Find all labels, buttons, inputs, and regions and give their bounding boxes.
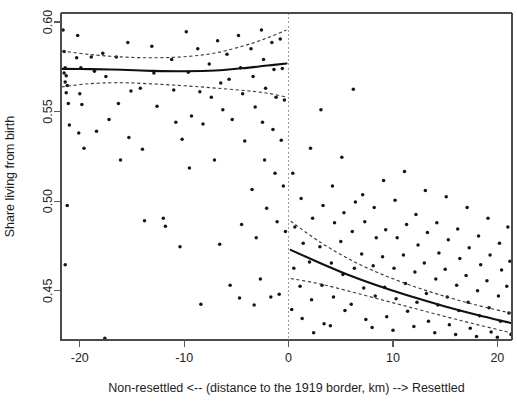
data-point: [103, 336, 107, 340]
data-point: [275, 220, 279, 224]
data-point: [162, 216, 166, 220]
data-point: [298, 285, 302, 289]
data-point: [447, 238, 451, 242]
data-point: [443, 267, 447, 271]
data-point: [299, 197, 303, 201]
data-point: [364, 318, 368, 322]
data-point: [259, 277, 263, 281]
data-point: [373, 294, 377, 298]
data-point: [213, 158, 217, 162]
data-point: [312, 331, 316, 335]
data-point: [230, 118, 234, 122]
data-point: [221, 108, 225, 112]
data-point: [496, 336, 500, 340]
data-point: [210, 95, 214, 99]
data-point: [489, 330, 493, 334]
x-axis-title: Non-resettled <-- (distance to the 1919 …: [108, 381, 464, 395]
data-point: [412, 325, 416, 329]
data-point: [251, 75, 255, 79]
data-point: [362, 286, 366, 290]
data-point: [76, 34, 80, 38]
data-point: [395, 236, 399, 240]
data-point: [291, 172, 295, 176]
data-point: [426, 231, 430, 235]
data-point: [477, 234, 481, 238]
data-point: [273, 172, 277, 176]
data-point: [270, 41, 274, 45]
data-point: [391, 328, 395, 332]
data-point: [435, 221, 439, 225]
data-point: [272, 68, 276, 72]
data-point: [371, 264, 375, 268]
data-point: [360, 252, 364, 256]
data-point: [119, 158, 123, 162]
fitted-curves-group: [62, 30, 511, 333]
data-point: [393, 198, 397, 202]
data-point: [340, 155, 344, 159]
y-tick-label: 0.45: [41, 279, 55, 303]
data-point: [448, 323, 452, 327]
data-point: [405, 223, 409, 227]
data-point: [508, 259, 512, 263]
data-point: [190, 114, 194, 118]
data-point: [384, 228, 388, 232]
data-point: [250, 188, 254, 192]
data-points-group: [61, 28, 512, 340]
data-point: [274, 95, 278, 99]
data-point: [180, 138, 184, 142]
data-point: [342, 211, 346, 215]
data-point: [372, 206, 376, 210]
data-point: [292, 267, 296, 271]
data-point: [351, 230, 355, 234]
data-point: [188, 166, 192, 170]
data-point: [331, 184, 335, 188]
data-point: [63, 263, 67, 267]
data-point: [330, 261, 334, 265]
data-point: [406, 310, 410, 314]
fit-left: [62, 64, 286, 72]
data-point: [218, 242, 222, 246]
data-point: [375, 236, 379, 240]
data-point: [290, 308, 294, 312]
data-point: [488, 253, 492, 257]
data-point: [238, 296, 242, 300]
data-point: [126, 41, 130, 45]
data-point: [311, 216, 315, 220]
data-point: [178, 245, 182, 249]
data-point: [433, 331, 437, 335]
data-point: [455, 284, 459, 288]
figure-panel: -20-10010200.450.500.550.60Share living …: [0, 0, 517, 406]
data-point: [208, 62, 212, 66]
data-point: [354, 200, 358, 204]
scatter-plot: -20-10010200.450.500.550.60Share living …: [0, 0, 517, 406]
data-point: [101, 52, 105, 56]
data-point: [90, 55, 94, 59]
data-point: [150, 44, 154, 48]
data-point: [127, 136, 131, 140]
data-point: [143, 219, 147, 223]
data-point: [78, 92, 82, 96]
x-tick-label: 0: [285, 351, 292, 365]
data-point: [241, 92, 245, 96]
data-point: [333, 221, 337, 225]
data-point: [506, 225, 510, 229]
data-point: [64, 74, 68, 78]
y-tick-label: 0.50: [41, 189, 55, 213]
data-point: [424, 189, 428, 193]
data-point: [199, 302, 203, 306]
data-point: [476, 289, 480, 293]
data-point: [423, 261, 427, 265]
data-point: [185, 30, 189, 33]
data-point: [300, 317, 304, 321]
data-point: [498, 241, 502, 245]
data-point: [201, 122, 205, 126]
data-point: [139, 87, 143, 91]
ci-upper-left: [62, 30, 286, 58]
data-point: [353, 267, 357, 271]
data-point: [444, 195, 448, 199]
data-point: [227, 78, 231, 82]
data-point: [277, 293, 281, 297]
data-point: [458, 257, 462, 261]
data-point: [392, 267, 396, 271]
x-tick-label: -20: [71, 351, 89, 365]
